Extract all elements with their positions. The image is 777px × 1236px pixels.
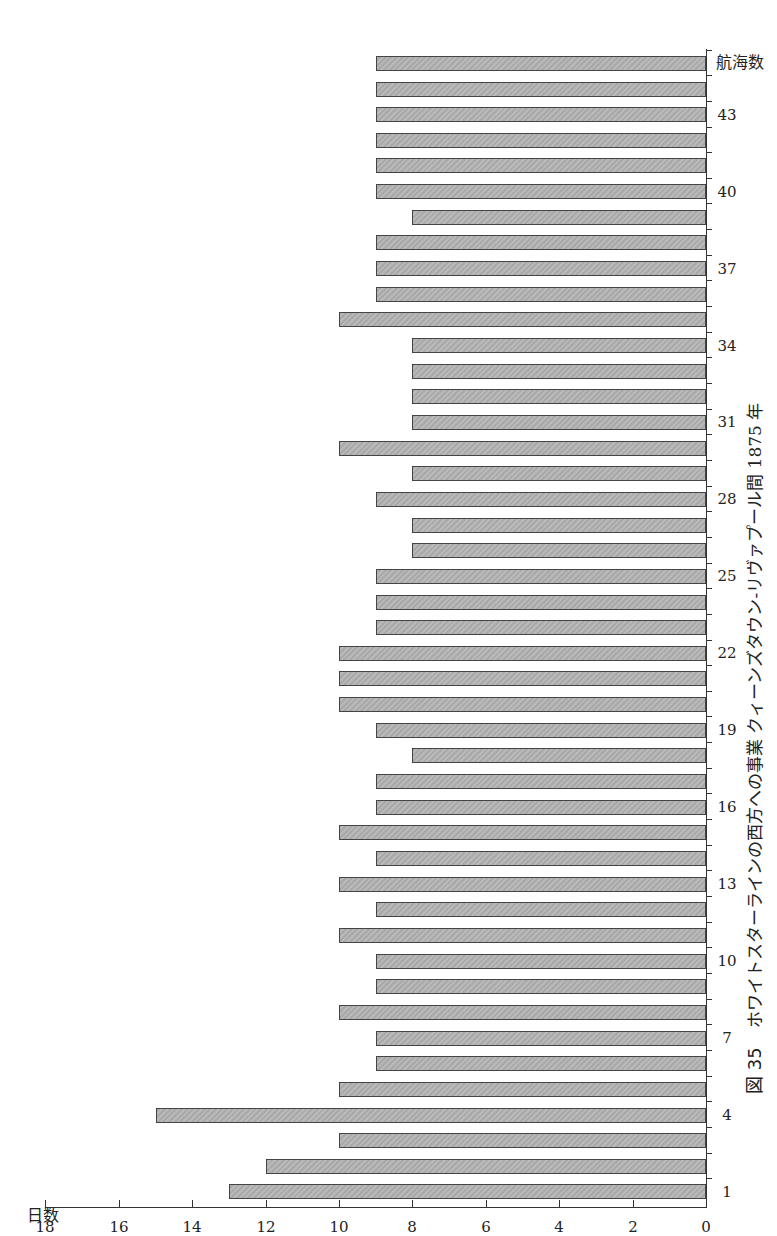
- x-tick-label: 1: [715, 1183, 739, 1201]
- y-tick-label: 12: [251, 1218, 281, 1236]
- y-axis-label: 日数: [27, 1202, 59, 1226]
- y-tick-label: 8: [397, 1218, 427, 1236]
- bar: [376, 287, 706, 302]
- bar: [376, 159, 706, 174]
- bar: [412, 748, 706, 763]
- bar: [376, 1056, 706, 1071]
- x-tick: [706, 306, 712, 307]
- x-tick: [706, 1153, 712, 1154]
- y-tick-label: 4: [544, 1218, 574, 1236]
- x-tick: [706, 896, 712, 897]
- bar: [376, 82, 706, 97]
- x-tick: [706, 1076, 712, 1077]
- y-tick-label: 2: [618, 1218, 648, 1236]
- bar: [412, 466, 706, 481]
- x-tick: [706, 332, 712, 333]
- x-tick-label: 13: [715, 875, 739, 893]
- x-tick: [706, 819, 712, 820]
- x-tick: [706, 203, 712, 204]
- y-tick-label: 16: [104, 1218, 134, 1236]
- bar: [376, 723, 706, 738]
- y-tick: [486, 1200, 487, 1208]
- bar: [412, 210, 706, 225]
- x-tick: [706, 973, 712, 974]
- x-tick: [706, 409, 712, 410]
- bar: [339, 1133, 706, 1148]
- x-tick-label: 28: [715, 490, 739, 508]
- x-axis-label: 航海数: [716, 49, 764, 73]
- x-tick: [706, 229, 712, 230]
- x-tick-label: 16: [715, 798, 739, 816]
- x-tick: [706, 1101, 712, 1102]
- bar: [376, 800, 706, 815]
- bar: [412, 543, 706, 558]
- bar: [339, 825, 706, 840]
- x-tick: [706, 716, 712, 717]
- x-tick: [706, 793, 712, 794]
- x-tick: [706, 1024, 712, 1025]
- bar: [376, 184, 706, 199]
- x-tick: [706, 101, 712, 102]
- bar: [412, 364, 706, 379]
- bar: [412, 389, 706, 404]
- y-tick: [559, 1200, 560, 1208]
- x-tick-label: 4: [715, 1106, 739, 1124]
- x-tick: [706, 280, 712, 281]
- bar: [376, 235, 706, 250]
- x-tick: [706, 1050, 712, 1051]
- bar: [376, 133, 706, 148]
- x-tick: [706, 999, 712, 1000]
- x-tick: [706, 460, 712, 461]
- bar: [376, 107, 706, 122]
- x-tick: [706, 742, 712, 743]
- figure-caption: 図 35 ホワイトスターラインの西方への事業 クィーンズタウン-リヴァプール間 …: [740, 403, 766, 1094]
- bar: [339, 441, 706, 456]
- x-tick: [706, 537, 712, 538]
- figure-caption-text: ホワイトスターラインの西方への事業 クィーンズタウン-リヴァプール間 1875 …: [745, 403, 765, 1028]
- x-tick: [706, 563, 712, 564]
- bar: [412, 518, 706, 533]
- x-tick-label: 37: [715, 260, 739, 278]
- bar: [376, 954, 706, 969]
- x-tick: [706, 922, 712, 923]
- x-tick: [706, 588, 712, 589]
- x-tick-label: 43: [715, 106, 739, 124]
- bar: [376, 851, 706, 866]
- x-tick: [706, 486, 712, 487]
- x-tick: [706, 614, 712, 615]
- y-tick: [633, 1200, 634, 1208]
- bar: [412, 338, 706, 353]
- x-tick: [706, 870, 712, 871]
- x-tick: [706, 357, 712, 358]
- bar: [376, 979, 706, 994]
- bar: [376, 620, 706, 635]
- x-tick-label: 22: [715, 644, 739, 662]
- y-tick-label: 0: [691, 1218, 721, 1236]
- y-tick: [339, 1200, 340, 1208]
- x-tick: [706, 255, 712, 256]
- y-tick: [119, 1200, 120, 1208]
- bar: [339, 1082, 706, 1097]
- x-tick-label: 31: [715, 414, 739, 432]
- x-tick: [706, 152, 712, 153]
- y-tick: [706, 1200, 707, 1208]
- bar: [376, 569, 706, 584]
- x-tick-label: 19: [715, 721, 739, 739]
- bar: [339, 646, 706, 661]
- y-axis-line: [45, 1207, 706, 1208]
- bar: [339, 877, 706, 892]
- bar: [339, 928, 706, 943]
- x-tick: [706, 127, 712, 128]
- x-tick: [706, 665, 712, 666]
- bar: [266, 1159, 706, 1174]
- bar: [376, 595, 706, 610]
- bar: [376, 902, 706, 917]
- bar: [376, 492, 706, 507]
- bar: [229, 1185, 706, 1200]
- y-tick-label: 6: [471, 1218, 501, 1236]
- bar: [339, 312, 706, 327]
- x-tick: [706, 434, 712, 435]
- x-tick: [706, 845, 712, 846]
- y-tick-label: 10: [324, 1218, 354, 1236]
